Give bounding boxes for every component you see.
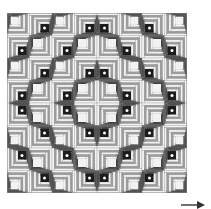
center-dot (103, 177, 106, 180)
center-dot (88, 27, 91, 30)
quilt-block (120, 148, 143, 171)
quilt-block (30, 58, 53, 81)
center-dot (66, 109, 69, 112)
quilt-block (7, 58, 30, 81)
quilt-block (142, 36, 165, 59)
center-dot (43, 177, 46, 180)
quilt-block (97, 13, 120, 36)
quilt-block (142, 126, 165, 149)
quilt-block (165, 36, 188, 59)
quilt-block (165, 148, 188, 171)
quilt-block (30, 13, 53, 36)
quilt-block (165, 81, 188, 104)
center-dot (126, 49, 129, 52)
quilt-block (7, 81, 30, 104)
quilt-block (75, 148, 98, 171)
center-dot (43, 72, 46, 75)
quilt-block (52, 171, 75, 194)
quilt-block (120, 36, 143, 59)
quilt-block (30, 103, 53, 126)
quilt-block (97, 36, 120, 59)
quilt-block (7, 171, 30, 194)
quilt-block (165, 126, 188, 149)
quilt-block (30, 171, 53, 194)
center-dot (66, 49, 69, 52)
quilt-block (30, 126, 53, 149)
quilt-block (165, 103, 188, 126)
quilt-block (7, 103, 30, 126)
quilt-block (7, 36, 30, 59)
quilt-block (75, 81, 98, 104)
quilt-block (97, 126, 120, 149)
quilt-block (75, 58, 98, 81)
center-dot (126, 94, 129, 97)
center-dot (21, 49, 24, 52)
quilt-block (142, 148, 165, 171)
right-arrow-icon (181, 200, 205, 209)
center-dot (103, 27, 106, 30)
quilt-block (120, 103, 143, 126)
quilt-block (75, 126, 98, 149)
quilt-block (97, 148, 120, 171)
quilt-block (75, 103, 98, 126)
quilt-block (97, 171, 120, 194)
center-dot (148, 72, 151, 75)
quilt-block (52, 103, 75, 126)
quilt-block (142, 81, 165, 104)
center-dot (171, 94, 174, 97)
quilt-block (120, 58, 143, 81)
quilt-block (142, 58, 165, 81)
quilt-block (7, 13, 30, 36)
quilt-block (52, 148, 75, 171)
center-dot (21, 109, 24, 112)
quilt-block (52, 13, 75, 36)
center-dot (103, 132, 106, 135)
quilt-block (30, 81, 53, 104)
center-dot (21, 94, 24, 97)
center-dot (66, 94, 69, 97)
quilt-block (75, 171, 98, 194)
center-dot (103, 72, 106, 75)
quilt-block (52, 126, 75, 149)
center-dot (126, 109, 129, 112)
center-dot (171, 109, 174, 112)
quilt-block (165, 58, 188, 81)
center-dot (88, 177, 91, 180)
center-dot (171, 154, 174, 157)
quilt-block (142, 103, 165, 126)
center-dot (148, 177, 151, 180)
quilt-block (75, 36, 98, 59)
quilt-block (120, 171, 143, 194)
center-dot (171, 49, 174, 52)
quilt-block (7, 148, 30, 171)
quilt-block (142, 171, 165, 194)
center-dot (148, 27, 151, 30)
center-dot (126, 154, 129, 157)
center-dot (43, 132, 46, 135)
center-dot (21, 154, 24, 157)
quilt-block (165, 13, 188, 36)
quilt-block (120, 13, 143, 36)
quilt-block (120, 126, 143, 149)
quilt-block (52, 81, 75, 104)
quilt-block (165, 171, 188, 194)
center-dot (66, 154, 69, 157)
center-dot (43, 27, 46, 30)
quilt-block (7, 126, 30, 149)
quilt-block (30, 148, 53, 171)
quilt-block (75, 13, 98, 36)
quilt-block (120, 81, 143, 104)
center-dot (148, 132, 151, 135)
quilt-pattern (7, 13, 187, 193)
quilt-block (30, 36, 53, 59)
quilt-block (97, 58, 120, 81)
quilt-block (142, 13, 165, 36)
center-dot (88, 132, 91, 135)
quilt-block (97, 81, 120, 104)
quilt-block (52, 58, 75, 81)
quilt-block (97, 103, 120, 126)
center-dot (88, 72, 91, 75)
quilt-block (52, 36, 75, 59)
